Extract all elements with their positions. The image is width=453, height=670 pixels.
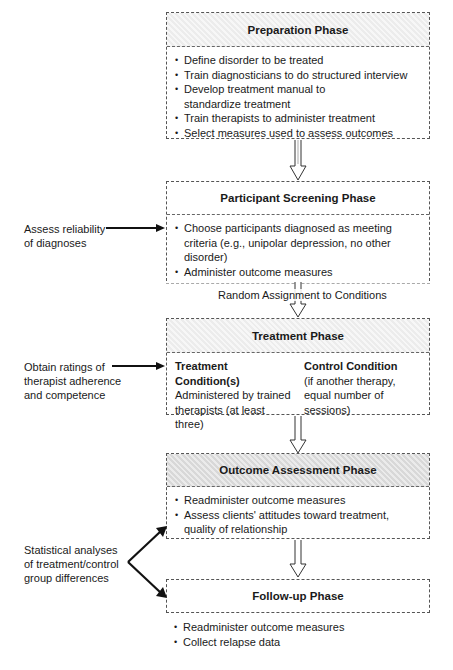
- treatment-phase-title: Treatment Phase: [167, 319, 429, 353]
- treatment-phase-box: Treatment Phase Treatment Condition(s) A…: [166, 318, 430, 415]
- follow-up-list: Readminister outcome measures Collect re…: [166, 616, 352, 653]
- screening-phase-list: Choose participants diagnosed as meeting…: [167, 215, 429, 287]
- outcome-assessment-list: Readminister outcome measures Assess cli…: [167, 487, 429, 545]
- list-item: Administer outcome measures: [175, 265, 399, 280]
- right-arrow-icon: [112, 361, 166, 371]
- list-item: Readminister outcome measures: [175, 493, 399, 508]
- treatment-condition-text: Administered by trained therapists (at l…: [175, 388, 292, 432]
- forked-arrow-icon: [125, 525, 169, 600]
- outcome-assessment-phase-box: Outcome Assessment Phase Readminister ou…: [166, 453, 430, 539]
- control-condition: Control Condition (if another therapy, e…: [292, 359, 421, 432]
- preparation-phase-box: Preparation Phase Define disorder to be …: [166, 12, 430, 139]
- list-item: Select measures used to assess outcomes: [175, 126, 421, 141]
- down-arrow-icon: [288, 140, 308, 181]
- preparation-phase-title: Preparation Phase: [167, 13, 429, 47]
- list-item: Collect relapse data: [174, 635, 344, 650]
- list-item: Train diagnosticians to do structured in…: [175, 68, 421, 83]
- side-note-statistical-analyses: Statistical analyses of treatment/contro…: [24, 543, 128, 585]
- follow-up-phase-box: Follow-up Phase: [166, 579, 430, 613]
- list-item: Assess clients' attitudes toward treatme…: [175, 508, 399, 537]
- down-arrow-icon: [288, 540, 308, 578]
- side-note-adherence: Obtain ratings of therapist adherence an…: [24, 360, 124, 402]
- follow-up-phase-title: Follow-up Phase: [167, 580, 429, 612]
- side-note-reliability: Assess reliability of diagnoses: [24, 222, 110, 250]
- outcome-assessment-phase-title: Outcome Assessment Phase: [167, 454, 429, 487]
- control-condition-title: Control Condition: [304, 359, 421, 374]
- list-item: Choose participants diagnosed as meeting…: [175, 221, 399, 265]
- list-item: Readminister outcome measures: [174, 620, 344, 635]
- down-arrow-icon: [288, 416, 308, 454]
- treatment-condition: Treatment Condition(s) Administered by t…: [175, 359, 292, 432]
- right-arrow-icon: [106, 223, 166, 233]
- preparation-phase-list: Define disorder to be treated Train diag…: [167, 47, 429, 148]
- treatment-condition-title: Treatment Condition(s): [175, 359, 292, 388]
- list-item: Define disorder to be treated: [175, 53, 421, 68]
- random-assignment-label: Random Assignment to Conditions: [216, 289, 389, 301]
- screening-phase-box: Participant Screening Phase Choose parti…: [166, 181, 430, 281]
- screening-phase-title: Participant Screening Phase: [167, 182, 429, 215]
- control-condition-text: (if another therapy, equal number of ses…: [304, 374, 421, 418]
- list-item: Develop treatment manual to standardize …: [175, 82, 421, 111]
- list-item: Train therapists to administer treatment: [175, 111, 421, 126]
